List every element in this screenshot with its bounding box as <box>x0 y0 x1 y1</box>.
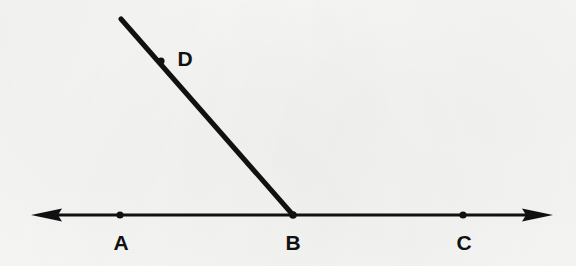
point-label-A: A <box>113 232 128 253</box>
ray-BD <box>121 19 293 215</box>
point-dot-C <box>459 211 466 218</box>
point-label-D: D <box>177 48 192 69</box>
left-arrowhead-icon <box>31 209 62 222</box>
point-label-B: B <box>285 232 300 253</box>
geometry-figure: A B C D <box>0 0 576 266</box>
point-dot-B <box>289 211 297 219</box>
right-arrowhead-icon <box>522 209 553 222</box>
point-dot-D <box>157 57 164 64</box>
geometry-canvas <box>0 0 576 266</box>
point-dot-A <box>116 211 123 218</box>
point-label-C: C <box>456 232 471 253</box>
